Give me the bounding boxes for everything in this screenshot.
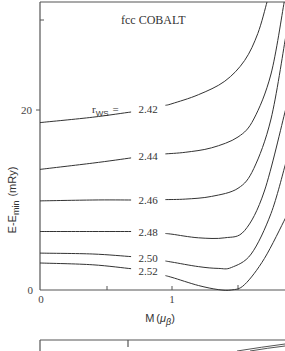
- chart-canvas: 20 0 0 1 fcc COBALT E-Emin(mRy) M(μβ) 2.…: [0, 0, 285, 351]
- curve-rws-2-46-right: [165, 38, 285, 200]
- curve-label-2-42: 2.42: [139, 103, 158, 115]
- plot-frame: [40, 2, 285, 290]
- curve-label-group: 2.422.442.462.482.502.52: [139, 103, 159, 277]
- curve-rws-2-46-left: [40, 200, 131, 201]
- y-tick-label-0: 0: [28, 284, 34, 296]
- lower-panel-frame: [40, 340, 285, 351]
- chart-title: fcc COBALT: [121, 13, 186, 27]
- curve-group: [40, 2, 285, 290]
- x-label-main: M: [145, 312, 154, 324]
- curve-label-2-44: 2.44: [139, 150, 159, 162]
- y-label-sub: min: [11, 201, 21, 216]
- curve-rws-2-52-left: [40, 263, 131, 269]
- curve-rws-2-44-left: [40, 158, 131, 170]
- curve-label-2-48: 2.48: [139, 226, 159, 238]
- curve-rws-2-50-left: [40, 253, 131, 257]
- rws-sub: WS: [96, 109, 109, 118]
- rws-label: rWS=: [92, 103, 119, 118]
- curve-rws-2-52-right: [165, 218, 285, 290]
- curve-label-2-52: 2.52: [139, 265, 158, 277]
- curve-label-2-50: 2.50: [139, 252, 159, 264]
- svg-text:E-Emin(mRy): E-Emin(mRy): [6, 167, 21, 234]
- curve-rws-2-48-right: [165, 110, 285, 238]
- x-tick-label-1: 1: [169, 293, 175, 305]
- curve-label-2-46: 2.46: [139, 194, 159, 206]
- y-label-main: E-E: [6, 215, 18, 233]
- y-tick-label-20: 20: [21, 104, 33, 116]
- lower-curve-a: [237, 344, 285, 351]
- x-label-close: ): [171, 312, 175, 324]
- y-label-unit: (mRy): [6, 167, 18, 197]
- x-tick-label-0: 0: [38, 293, 44, 305]
- x-label-mu: μ: [159, 312, 166, 324]
- rws-eq: =: [113, 103, 119, 115]
- x-axis-label: M(μβ): [145, 312, 175, 327]
- y-axis-label: E-Emin(mRy): [6, 167, 21, 234]
